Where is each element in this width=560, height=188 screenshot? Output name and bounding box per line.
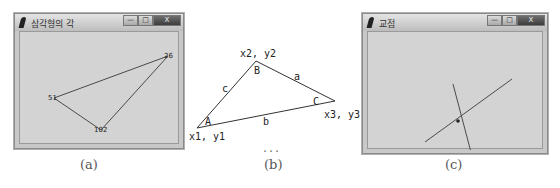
feather-icon [19,17,27,28]
maximize-button[interactable]: □ [502,15,517,26]
minimize-button[interactable]: — [487,15,502,26]
point-3-label: x3, y3 [324,109,360,120]
point-1-label: x1, y1 [189,131,225,142]
vertex-label-bottom: 102 [94,126,107,134]
side-b-label: b [263,116,269,127]
window-intersection: 교점 — □ X [362,13,548,154]
caption-c: (c) [445,157,462,172]
close-button[interactable]: X [153,15,181,26]
intersection-point [456,119,460,123]
vertex-label-left: 51 [48,94,57,102]
point-2-label: x2, y2 [240,48,276,59]
minimize-button[interactable]: — [123,15,138,26]
window-triangle-angles: 삼각형의 각 — □ X 51 102 26 [14,13,184,149]
triangle-diagram: x2, y2 x1, y1 x3, y3 B A C a b c [185,40,365,150]
title-bar[interactable]: 교점 — □ X [363,14,547,31]
close-button[interactable]: X [517,15,545,26]
side-c-label: c [222,83,228,94]
window-title: 교점 [379,17,395,30]
window-title: 삼각형의 각 [31,17,74,30]
angle-c-label: C [313,96,319,107]
caption-a: (a) [80,157,98,172]
vertex-label-top-right: 26 [164,52,173,60]
feather-icon [367,17,375,28]
caption-b: (b) [264,157,282,172]
intersecting-lines [368,32,544,150]
angle-b-label: B [254,65,260,76]
angle-a-label: A [205,116,211,127]
maximize-button[interactable]: □ [138,15,153,26]
ellipsis: ... [262,143,280,154]
side-a-label: a [294,71,300,82]
title-bar[interactable]: 삼각형의 각 — □ X [15,14,183,31]
drawing-canvas[interactable]: 51 102 26 [19,31,179,144]
drawing-canvas[interactable] [367,31,543,149]
